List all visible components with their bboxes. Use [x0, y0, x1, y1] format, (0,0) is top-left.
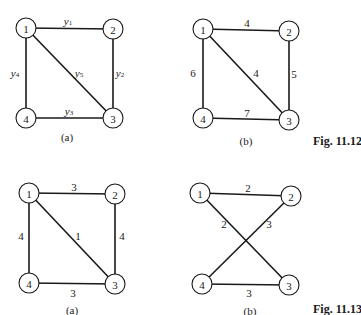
- edge-weight-label: 6: [190, 67, 196, 79]
- node-1: 1: [19, 183, 39, 203]
- caption-fig-11-13-a: (a): [66, 304, 79, 315]
- node-label: 2: [112, 189, 118, 201]
- edge-1-2: [203, 29, 289, 31]
- edge-1-3: [200, 193, 289, 285]
- node-label: 1: [23, 23, 29, 35]
- node-1: 1: [16, 18, 36, 38]
- caption-fig-11-13-b: (b): [244, 305, 257, 315]
- edge-weight-label: y1: [63, 15, 73, 27]
- edge-weight-label: 4: [119, 230, 125, 242]
- edge-weight-label: y3: [64, 105, 74, 117]
- node-label: 3: [110, 113, 116, 125]
- graphs-layer: y1y2y3y4y5123445764123434341123422331234: [10, 15, 301, 299]
- caption-fig-11-12-b: (b): [240, 135, 253, 148]
- edge-weight-label: 4: [18, 230, 24, 242]
- edge-weight-label: 2: [221, 218, 227, 230]
- edge-weight-label: y5: [74, 67, 84, 79]
- node-label: 3: [286, 280, 292, 292]
- edge-weight-label: 5: [291, 68, 297, 80]
- graph-fig-11-12-a: y1y2y3y4y51234: [10, 15, 125, 128]
- node-4: 4: [16, 108, 36, 128]
- caption-fig-11-12-a: (a): [61, 131, 74, 144]
- edge-weight-label: 3: [71, 181, 77, 193]
- edge-weight-label: 4: [253, 67, 259, 79]
- node-label: 4: [199, 279, 205, 291]
- edge-weight-label: 3: [266, 218, 272, 230]
- node-2: 2: [103, 19, 123, 39]
- edge-4-3: [202, 284, 289, 285]
- figure-label-11-13: Fig. 11.13: [313, 302, 361, 315]
- diagram-canvas: y1y2y3y4y5123445764123434341123422331234…: [0, 0, 361, 315]
- node-label: 1: [197, 188, 203, 200]
- node-label: 2: [286, 26, 292, 38]
- edge-weight-label: 4: [244, 17, 250, 29]
- edge-1-2: [29, 193, 115, 194]
- edge-weight-label: 1: [75, 230, 81, 242]
- edge-1-3: [29, 193, 115, 284]
- node-label: 1: [26, 188, 32, 200]
- node-2: 2: [105, 184, 125, 204]
- node-3: 3: [279, 110, 299, 130]
- node-label: 3: [112, 279, 118, 291]
- node-3: 3: [279, 275, 299, 295]
- node-4: 4: [192, 274, 212, 294]
- edge-weight-label: 2: [245, 182, 251, 194]
- node-label: 2: [110, 24, 116, 36]
- edge-4-3: [29, 283, 115, 284]
- node-label: 2: [288, 191, 294, 203]
- figure-label-11-12: Fig. 11.12: [313, 134, 361, 148]
- node-4: 4: [19, 273, 39, 293]
- graph-fig-11-13-a: 343411234: [18, 181, 125, 299]
- node-label: 3: [286, 115, 292, 127]
- edge-1-2: [26, 28, 113, 29]
- node-label: 1: [200, 24, 206, 36]
- node-1: 1: [190, 183, 210, 203]
- edge-weight-label: 3: [70, 287, 76, 299]
- graph-fig-11-12-b: 457641234: [190, 17, 299, 130]
- node-label: 4: [23, 113, 29, 125]
- node-3: 3: [103, 108, 123, 128]
- edge-weight-label: 3: [246, 287, 252, 299]
- graph-fig-11-13-b: 22331234: [190, 182, 301, 299]
- node-label: 4: [200, 113, 206, 125]
- node-2: 2: [281, 186, 301, 206]
- node-2: 2: [279, 21, 299, 41]
- edge-weight-label: 7: [244, 107, 250, 119]
- node-1: 1: [193, 19, 213, 39]
- node-label: 4: [26, 278, 32, 290]
- node-4: 4: [193, 108, 213, 128]
- node-3: 3: [105, 274, 125, 294]
- edge-weight-label: y2: [115, 67, 125, 79]
- edge-weight-label: y4: [10, 67, 20, 79]
